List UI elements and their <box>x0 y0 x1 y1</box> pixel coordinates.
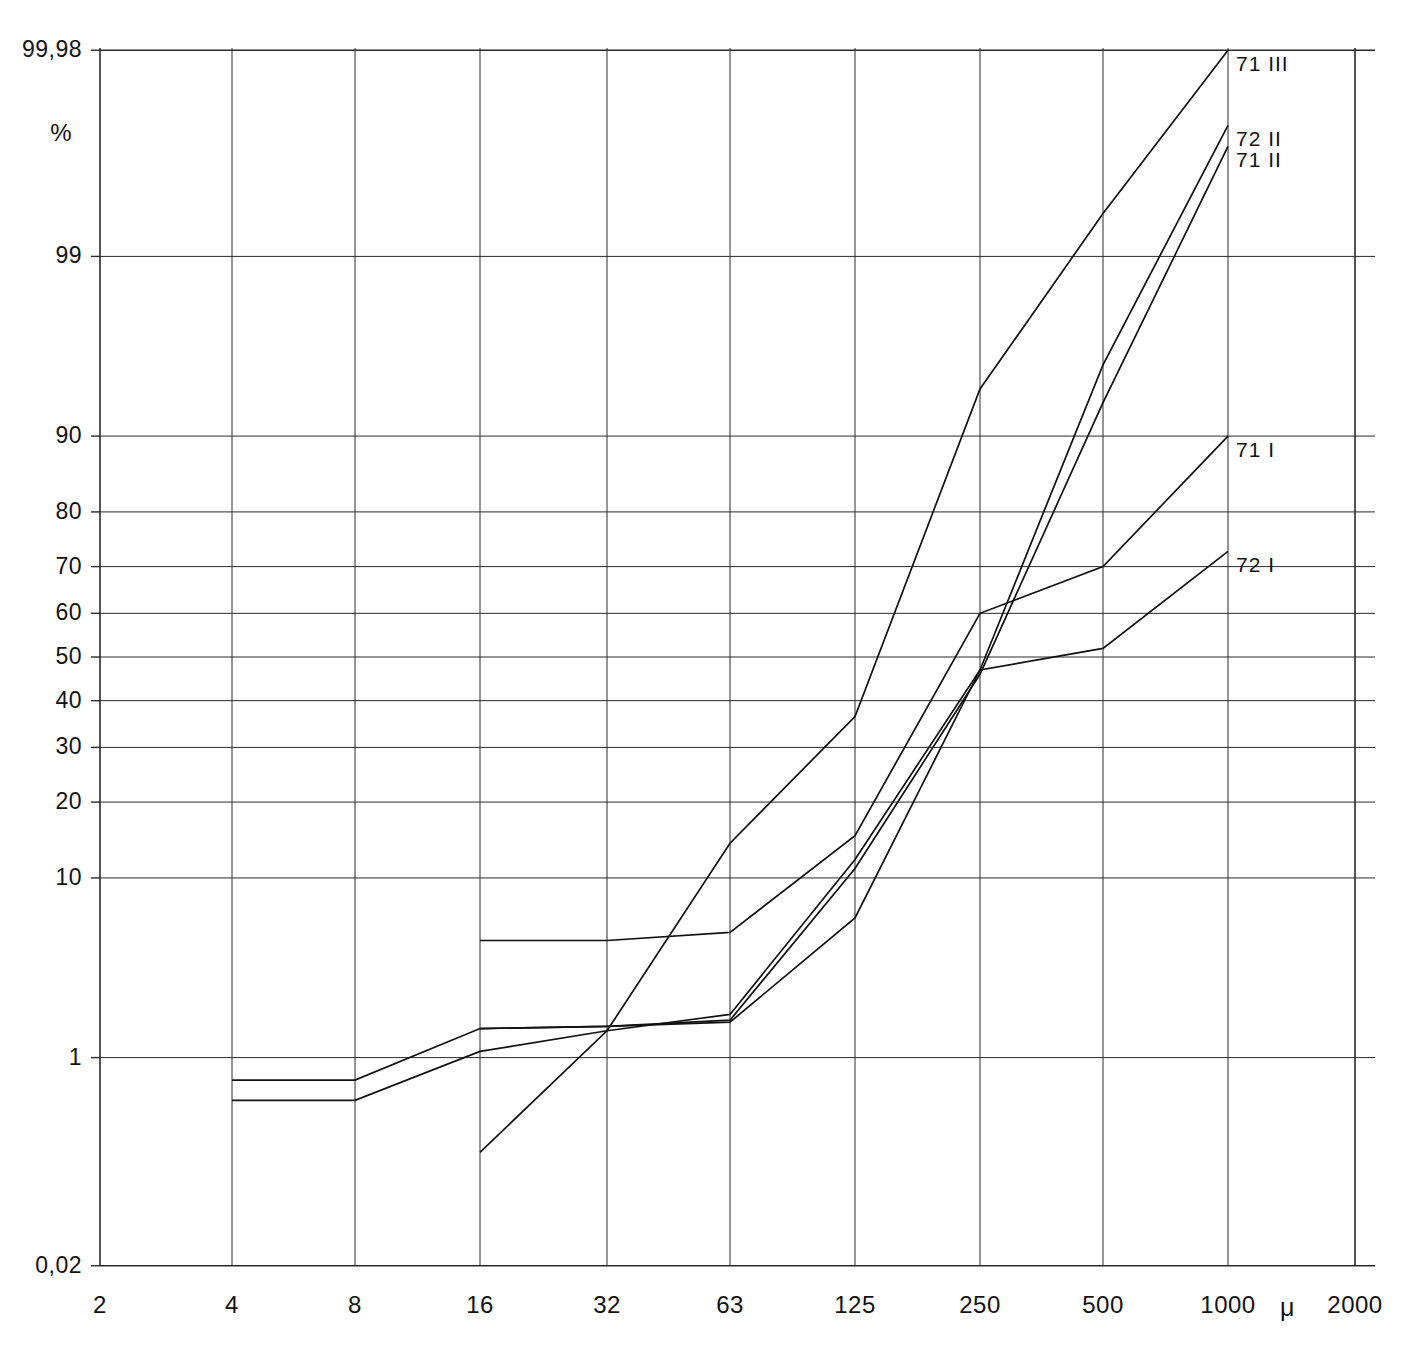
x-axis-tick-label: 16 <box>420 1293 540 1317</box>
x-axis-tick-label: 2 <box>40 1293 160 1317</box>
series-line-4 <box>480 551 1228 1028</box>
y-axis-tick-label: 0,02 <box>0 1254 82 1277</box>
y-axis-tick-label: 20 <box>0 790 82 813</box>
y-axis-tick-label: 10 <box>0 866 82 889</box>
series-label-72-i: 72 I <box>1236 554 1275 575</box>
y-axis-tick-label: 50 <box>0 645 82 668</box>
y-axis-tick-label: 70 <box>0 555 82 578</box>
y-axis-tick-label: 99 <box>0 244 82 267</box>
series-line-0 <box>480 50 1228 1152</box>
x-axis-tick-label: 2000 <box>1295 1293 1408 1317</box>
x-axis-tick-label: 32 <box>547 1293 667 1317</box>
x-axis-tick-label: 63 <box>670 1293 790 1317</box>
y-axis-tick-label: 40 <box>0 689 82 712</box>
y-axis-tick-label: 80 <box>0 500 82 523</box>
probability-plot: 99,98%9990807060504030201010,02 24816326… <box>0 0 1408 1366</box>
y-axis-tick-label: 30 <box>0 735 82 758</box>
x-axis-tick-label: 4 <box>172 1293 292 1317</box>
y-axis-tick-label: 90 <box>0 424 82 447</box>
y-axis-tick-label: 99,98 <box>0 38 82 61</box>
series-label-71-iii: 71 III <box>1236 53 1289 74</box>
series-label-71-i: 71 I <box>1236 439 1275 460</box>
y-axis-unit-label: % <box>0 121 72 144</box>
series-label-72-ii: 72 II <box>1236 128 1282 149</box>
y-axis-tick-label: 1 <box>0 1046 82 1069</box>
series-label-71-ii: 71 II <box>1236 149 1282 170</box>
x-axis-tick-label: 1000 <box>1168 1293 1288 1317</box>
micron-unit-label: μ <box>1280 1293 1294 1322</box>
y-axis-tick-label: 60 <box>0 601 82 624</box>
x-axis-tick-label: 500 <box>1043 1293 1163 1317</box>
x-axis-tick-label: 250 <box>920 1293 1040 1317</box>
plot-canvas <box>0 0 1408 1366</box>
x-axis-tick-label: 8 <box>295 1293 415 1317</box>
x-axis-tick-label: 125 <box>795 1293 915 1317</box>
